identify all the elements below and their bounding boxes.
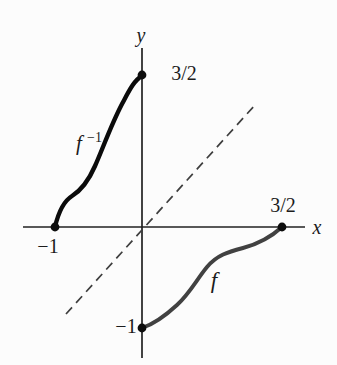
right-intercept-label: 3/2 (270, 194, 296, 216)
curve-f-inverse (55, 76, 142, 227)
f-inverse-base-symbol: f (76, 131, 85, 155)
top-intercept-label: 3/2 (171, 62, 197, 84)
f-inverse-curve-label: f −1 (76, 130, 102, 155)
y-axis-label: y (135, 24, 146, 47)
f-inverse-superscript: −1 (87, 130, 102, 145)
f-curve-label: f (211, 268, 221, 293)
left-intercept-label: −1 (37, 235, 58, 257)
endpoint-dot-bottom (138, 324, 147, 333)
bottom-intercept-label: −1 (115, 315, 136, 337)
endpoint-dot-left (51, 223, 60, 232)
inverse-function-plot: y x 3/2 3/2 −1 −1 f −1 f (0, 0, 337, 365)
endpoint-dot-right (278, 223, 287, 232)
x-axis-label: x (312, 216, 322, 238)
endpoint-dot-top (138, 71, 147, 80)
figure-canvas: y x 3/2 3/2 −1 −1 f −1 f (0, 0, 337, 365)
